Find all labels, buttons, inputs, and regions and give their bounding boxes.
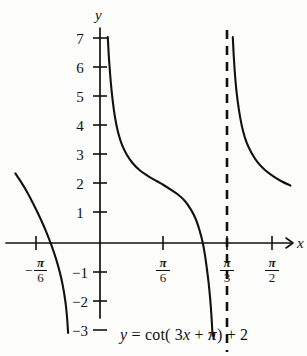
x-tick-label-pi-over-6: π 6 [147, 252, 179, 288]
y-tick-label-6: 6 [76, 60, 84, 76]
equation-close-paren: ) [217, 326, 223, 343]
plot-canvas: y x 7 6 5 4 3 2 1 −1 −2 −3 [0, 0, 307, 356]
x-tick-label-neg-pi-over-6: − π 6 [14, 252, 58, 288]
y-axis-label: y [93, 7, 102, 23]
minus-sign: − [25, 264, 33, 278]
x-tick-label-pi-over-3: π 3 [211, 252, 243, 288]
y-tick-label-neg3: −3 [72, 323, 88, 339]
y-tick-label-7: 7 [76, 31, 84, 47]
equation-lhs: y [120, 326, 127, 343]
y-tick-label-neg1: −1 [72, 265, 88, 281]
y-tick-label-3: 3 [76, 147, 84, 163]
equation-constant: 2 [240, 326, 248, 343]
fraction-denominator: 6 [156, 271, 169, 284]
fraction-denominator: 2 [265, 271, 278, 284]
fraction-numerator: π [34, 256, 47, 270]
equation-plus-2: + [227, 326, 240, 343]
y-tick-label-2: 2 [76, 176, 84, 192]
fraction-numerator: π [156, 256, 169, 270]
equation-variable: x [183, 326, 190, 343]
y-tick-label-4: 4 [76, 118, 84, 134]
fraction-numerator: π [220, 256, 233, 270]
x-axis-label: x [296, 235, 304, 251]
equation-caption: y = cot( 3x + π) + 2 [120, 326, 248, 344]
fraction-numerator: π [265, 256, 278, 270]
equation-pi: π [208, 326, 217, 343]
curve-branch-middle [108, 37, 213, 336]
fraction-denominator: 3 [220, 271, 233, 284]
equation-plus-1: + [195, 326, 208, 343]
y-tick-label-neg2: −2 [72, 294, 88, 310]
equation-coefficient: 3 [175, 326, 183, 343]
curve-branch-right [233, 37, 291, 185]
equation-cot: cot( [145, 326, 171, 343]
equation-equals: = [132, 326, 145, 343]
y-tick-label-1: 1 [76, 205, 84, 221]
cotangent-graph-figure: y x 7 6 5 4 3 2 1 −1 −2 −3 − π 6 π 6 π 3 [0, 0, 307, 356]
x-tick-label-pi-over-2: π 2 [256, 252, 288, 288]
y-tick-label-5: 5 [76, 89, 84, 105]
fraction-denominator: 6 [34, 271, 47, 284]
